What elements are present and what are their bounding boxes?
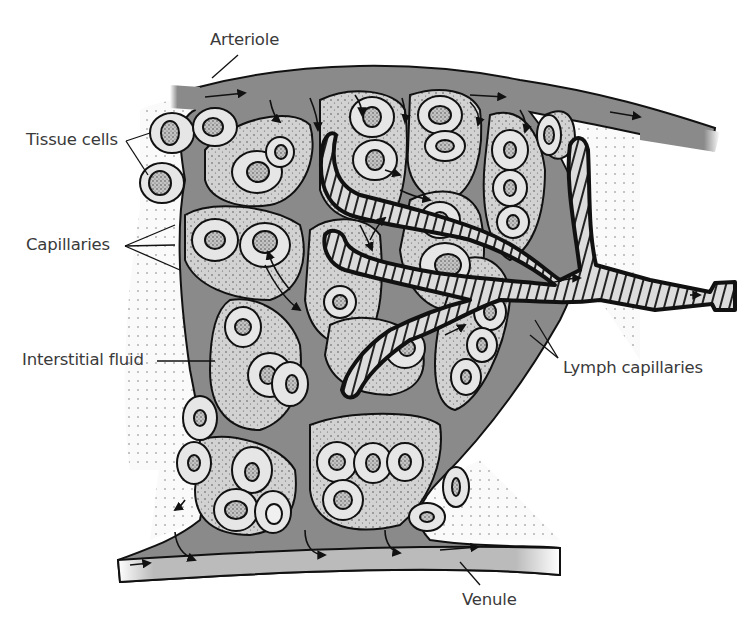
tissue-cell	[350, 97, 394, 137]
capillary-bed-diagram: Arteriole Tissue cells Capillaries Inter…	[0, 0, 747, 625]
leader-arteriole	[212, 55, 238, 78]
label-arteriole: Arteriole	[210, 30, 279, 49]
tissue-cell	[323, 480, 363, 520]
tissue-cell	[425, 131, 465, 161]
label-tissue-cells: Tissue cells	[26, 130, 118, 149]
tissue-cell	[232, 447, 272, 493]
tissue-cell	[317, 442, 357, 482]
tissue-cell	[418, 96, 462, 134]
tissue-cell	[353, 140, 397, 180]
tissue-cell	[214, 489, 258, 531]
tissue-cell	[324, 286, 356, 318]
tissue-cell	[272, 362, 308, 406]
tissue-cell	[443, 467, 469, 507]
tissue-cell	[193, 108, 237, 146]
tissue-cell	[192, 219, 238, 261]
tissue-cell	[140, 163, 184, 203]
tissue-cell	[225, 307, 261, 347]
tissue-cell	[183, 396, 217, 440]
diagram-artwork	[0, 0, 747, 625]
tissue-cell	[537, 115, 561, 155]
tissue-cell	[177, 442, 211, 484]
tissue-cell	[497, 206, 529, 238]
tissue-cell	[150, 113, 194, 153]
label-venule: Venule	[462, 590, 517, 609]
tissue-cell	[240, 223, 290, 267]
tissue-cell	[387, 443, 423, 481]
label-interstitial-fluid: Interstitial fluid	[22, 350, 144, 369]
tissue-cell	[492, 130, 528, 170]
tissue-cell	[493, 170, 527, 206]
tissue-cell	[467, 328, 497, 362]
tissue-cell	[255, 491, 291, 533]
label-lymph-capillaries: Lymph capillaries	[563, 358, 703, 377]
tissue-cell	[266, 137, 294, 167]
label-capillaries: Capillaries	[26, 235, 110, 254]
tissue-cell	[409, 503, 445, 531]
tissue-cell	[451, 359, 481, 395]
